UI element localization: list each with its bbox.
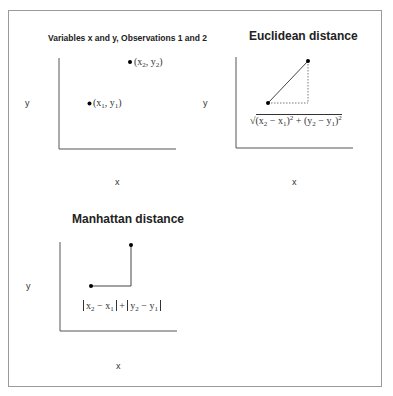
minus: − xyxy=(139,300,150,311)
sqrt-radicand: (x2 − x1)2 + (y2 − y1)2 xyxy=(256,114,342,126)
manhattan-y-axis-label: y xyxy=(26,281,31,291)
euclidean-title: Euclidean distance xyxy=(249,29,358,43)
manhattan-point-2 xyxy=(129,243,133,247)
euclidean-axes xyxy=(236,57,353,148)
abs-x-difference: x2 − x1 xyxy=(83,300,117,311)
observation-2-point xyxy=(128,60,132,64)
euclidean-x-axis-label: x xyxy=(292,177,297,187)
subscript: 1 xyxy=(154,305,158,313)
euclidean-point-2 xyxy=(306,59,310,63)
observations-y-axis-label: y xyxy=(25,98,30,108)
plus: + xyxy=(293,115,304,126)
superscript: 2 xyxy=(338,114,342,122)
paren-close: ) xyxy=(118,97,121,108)
minus: − xyxy=(95,300,106,311)
plus: + xyxy=(117,300,128,311)
manhattan-title: Manhattan distance xyxy=(72,212,184,226)
paren-open: ( xyxy=(304,115,307,126)
minus: − xyxy=(267,115,278,126)
observation-2-label: (x2, y2) xyxy=(134,56,163,69)
observations-title: Variables x and y, Observations 1 and 2 xyxy=(48,33,207,43)
manhattan-distance-path xyxy=(91,245,131,286)
diagram-canvas xyxy=(0,0,393,396)
observations-x-axis-label: x xyxy=(115,177,120,187)
observation-1-point xyxy=(88,102,92,106)
euclidean-point-1 xyxy=(266,101,270,105)
manhattan-x-axis-label: x xyxy=(116,361,121,371)
minus: − xyxy=(316,115,327,126)
paren-open: ( xyxy=(256,115,259,126)
euclidean-y-axis-label: y xyxy=(203,98,208,108)
subscript: 1 xyxy=(110,305,114,313)
paren-close: ) xyxy=(159,56,162,67)
manhattan-point-1 xyxy=(89,284,93,288)
euclidean-distance-line xyxy=(268,61,308,103)
manhattan-formula: x2 − x1 + y2 − y1 xyxy=(83,300,161,313)
abs-y-difference: y2 − y1 xyxy=(127,300,161,311)
observation-1-label: (x1, y1) xyxy=(93,97,122,110)
euclidean-formula: √(x2 − x1)2 + (y2 − y1)2 xyxy=(250,114,342,128)
